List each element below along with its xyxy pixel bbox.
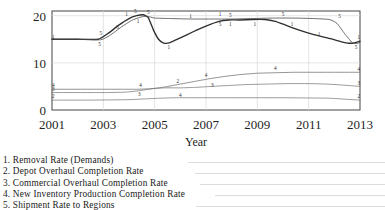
series-marker-4: 4 [274, 65, 277, 71]
series-marker-1: 1 [229, 21, 232, 27]
series-marker-3: 3 [357, 80, 360, 86]
series-marker-5: 5 [282, 11, 285, 17]
line-chart-figure: 1555151511511515115154324324434432 01020… [0, 0, 385, 210]
series-marker-5: 5 [229, 12, 232, 18]
series-marker-1: 1 [318, 31, 321, 37]
series-marker-5: 5 [338, 13, 341, 19]
series-marker-3: 3 [138, 91, 141, 97]
series-marker-1: 1 [357, 34, 360, 40]
series-marker-2: 2 [357, 93, 360, 99]
series-marker-1: 1 [189, 13, 192, 19]
scan-artifact-line [195, 173, 385, 174]
scan-artifact-line [215, 195, 385, 196]
series-marker-1: 1 [52, 34, 55, 40]
x-tick-label: 2011 [296, 117, 322, 132]
series-marker-1: 1 [291, 21, 294, 27]
x-axis-tick-labels: 2001200320052007200920112013 [39, 117, 373, 132]
series-marker-3: 3 [52, 86, 55, 92]
series-marker-5: 5 [98, 41, 101, 47]
series-marker-5: 5 [134, 8, 137, 14]
y-tick-label: 10 [33, 56, 46, 71]
series-marker-1: 1 [253, 21, 256, 27]
x-axis-title: Year [185, 135, 207, 149]
scan-artifact-line [196, 206, 385, 207]
series-marker-1: 1 [125, 11, 128, 17]
x-tick-label: 2007 [193, 117, 220, 132]
y-tick-label: 20 [33, 9, 46, 24]
series-marker-5: 5 [219, 21, 222, 27]
legend-item-label: 5. Shipment Rate to Regions [3, 200, 115, 210]
series-marker-4: 4 [357, 66, 360, 72]
series-marker-5: 5 [147, 9, 150, 15]
legend: 1. Removal Rate (Demands) 2. Depot Overh… [3, 152, 253, 208]
series-marker-2: 2 [176, 78, 179, 84]
series-marker-4: 4 [179, 92, 182, 98]
x-tick-label: 2009 [244, 117, 270, 132]
y-axis-tick-labels: 01020 [33, 9, 46, 118]
x-tick-label: 2005 [142, 117, 168, 132]
series-marker-1: 1 [137, 18, 140, 24]
series-marker-5: 5 [99, 30, 102, 36]
x-tick-label: 2001 [39, 117, 65, 132]
series-marker-5: 5 [355, 44, 358, 50]
series-marker-1: 1 [219, 11, 222, 17]
x-tick-label: 2013 [347, 117, 373, 132]
series-marker-3: 3 [211, 82, 214, 88]
series-marker-5: 5 [116, 24, 119, 30]
x-tick-label: 2003 [90, 117, 116, 132]
series-marker-2: 2 [52, 93, 55, 99]
scan-artifact-line [200, 184, 385, 185]
series-marker-4: 4 [139, 82, 142, 88]
scan-artifact-line [188, 162, 385, 163]
series-marker-4: 4 [205, 72, 208, 78]
y-tick-label: 0 [40, 103, 47, 118]
series-marker-1: 1 [167, 44, 170, 50]
